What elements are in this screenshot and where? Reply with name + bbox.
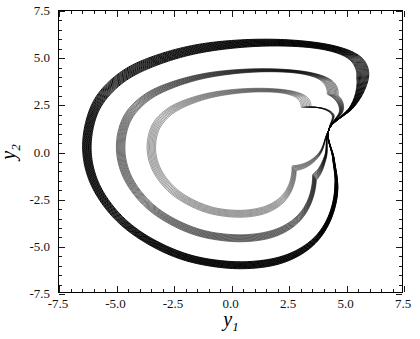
y-tick-label: 2.5 xyxy=(18,98,50,111)
y-tick-label: -7.5 xyxy=(18,287,50,300)
y-axis-title-text: y xyxy=(0,151,19,160)
y-axis-title: y2 xyxy=(0,144,24,159)
x-tick-label: -5.0 xyxy=(105,297,126,310)
trajectory-loop xyxy=(151,90,334,214)
plot-area xyxy=(58,10,403,293)
y-tick-label: -2.5 xyxy=(18,192,50,205)
y-tick-label: 7.5 xyxy=(18,4,50,17)
x-axis-title: y1 xyxy=(223,308,238,335)
y-axis-title-subscript: 2 xyxy=(8,144,23,151)
figure-phase-portrait: -7.5-5.0-2.50.02.55.07.5 7.55.02.50.0-2.… xyxy=(0,0,420,339)
x-tick-label: 5.0 xyxy=(337,297,353,310)
y-tick-label: -5.0 xyxy=(18,239,50,252)
trajectory-loop xyxy=(156,92,333,210)
trajectory-loop xyxy=(147,88,334,217)
x-tick-label: -7.5 xyxy=(48,297,69,310)
x-tick-label: 7.5 xyxy=(395,297,411,310)
attractor-curve xyxy=(59,11,402,292)
trajectory-loop xyxy=(152,90,333,213)
x-axis-title-text: y xyxy=(223,308,232,330)
x-tick-label: -2.5 xyxy=(163,297,184,310)
caption-fragment xyxy=(22,332,252,337)
x-tick-label: 2.5 xyxy=(280,297,296,310)
trajectory-loop xyxy=(154,91,332,211)
trajectory-loop xyxy=(118,69,342,240)
y-tick-label: 5.0 xyxy=(18,51,50,64)
